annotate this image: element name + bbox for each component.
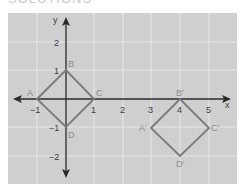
svg-text:2: 2 (54, 38, 59, 48)
y-tick-labels: 2 1 −1 −2 (49, 38, 59, 162)
coordinate-plane: x y −1 1 2 3 4 5 2 1 −1 −2 A B C D A′ B′… (0, 0, 243, 190)
x-tick-labels: −1 1 2 3 4 5 (30, 105, 211, 115)
svg-text:−1: −1 (49, 123, 59, 133)
point-label-b: B (68, 59, 74, 69)
y-axis (62, 17, 70, 178)
svg-text:5: 5 (206, 105, 211, 115)
x-axis-label: x (225, 100, 230, 110)
svg-text:−1: −1 (30, 105, 40, 115)
x-axis (13, 95, 231, 103)
point-label-c-prime: C′ (211, 123, 219, 133)
svg-text:−2: −2 (49, 152, 59, 162)
svg-text:2: 2 (120, 105, 125, 115)
svg-text:4: 4 (177, 105, 182, 115)
point-label-a: A (27, 88, 33, 98)
point-label-a-prime: A′ (139, 123, 147, 133)
svg-text:1: 1 (54, 66, 59, 76)
point-label-d-prime: D′ (176, 159, 184, 169)
svg-text:3: 3 (148, 105, 153, 115)
svg-text:1: 1 (91, 105, 96, 115)
point-label-b-prime: B′ (176, 88, 184, 98)
point-label-d: D (68, 130, 75, 140)
y-axis-label: y (53, 15, 58, 25)
point-label-c: C (96, 88, 103, 98)
